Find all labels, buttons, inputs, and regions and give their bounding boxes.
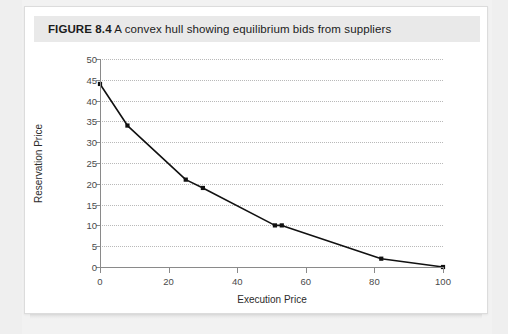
y-axis-tick-label: 5 <box>71 241 97 252</box>
x-axis-tick-mark <box>443 268 444 273</box>
data-point-marker <box>201 186 205 190</box>
y-axis-tick-labels: 05101520253035404550 <box>67 59 97 268</box>
y-axis-tick-marks <box>100 59 105 268</box>
data-point-marker <box>125 123 129 127</box>
card-drop-shadow <box>30 314 482 319</box>
series-markers <box>98 82 445 269</box>
y-axis-tick-label: 20 <box>71 178 97 189</box>
series-line <box>100 84 443 267</box>
x-axis-tick-label: 0 <box>85 276 115 287</box>
y-axis-title-text: Reservation Price <box>33 124 44 203</box>
y-axis-tick-label: 0 <box>71 262 97 273</box>
page-gutter-left <box>0 0 22 334</box>
x-axis-tick-label: 20 <box>154 276 184 287</box>
y-axis-tick-label: 30 <box>71 137 97 148</box>
page-canvas: FIGURE 8.4 A convex hull showing equilib… <box>0 0 508 334</box>
x-axis-tick-label: 80 <box>359 276 389 287</box>
series-layer <box>100 59 443 267</box>
line-chart: Reservation Price 05101520253035404550 0… <box>25 42 487 313</box>
y-axis-tick-label: 45 <box>71 74 97 85</box>
y-axis-tick-label: 35 <box>71 116 97 127</box>
x-axis-title: Execution Price <box>100 294 444 305</box>
x-axis-tick-label: 100 <box>428 276 458 287</box>
y-axis-tick-label: 40 <box>71 95 97 106</box>
page-gutter-right <box>492 0 508 334</box>
figure-caption: FIGURE 8.4 A convex hull showing equilib… <box>34 23 391 35</box>
y-axis-tick-label: 10 <box>71 220 97 231</box>
data-point-marker <box>184 178 188 182</box>
x-axis-tick-label: 60 <box>291 276 321 287</box>
x-axis-tick-mark <box>374 268 375 273</box>
y-axis-tick-label: 15 <box>71 199 97 210</box>
figure-caption-text: A convex hull showing equilibrium bids f… <box>112 23 392 35</box>
x-axis-tick-mark <box>306 268 307 273</box>
plot-area <box>100 59 443 267</box>
y-axis-title: Reservation Price <box>31 59 45 267</box>
data-point-marker <box>280 223 284 227</box>
x-axis-tick-label: 40 <box>222 276 252 287</box>
y-axis-tick-label: 50 <box>71 54 97 65</box>
figure-number: FIGURE 8.4 <box>48 23 112 35</box>
data-point-marker <box>273 223 277 227</box>
x-axis-tick-mark <box>237 268 238 273</box>
x-axis-tick-mark <box>169 268 170 273</box>
x-axis-tick-mark <box>100 268 101 273</box>
figure-title-band: FIGURE 8.4 A convex hull showing equilib… <box>34 16 480 42</box>
figure-card: FIGURE 8.4 A convex hull showing equilib… <box>24 6 488 314</box>
x-axis-ticks: 020406080100 <box>100 268 444 292</box>
y-axis-tick-label: 25 <box>71 158 97 169</box>
data-point-marker <box>379 257 383 261</box>
